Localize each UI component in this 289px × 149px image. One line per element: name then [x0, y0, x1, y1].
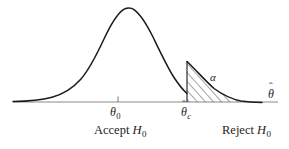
accept-word: Accept — [94, 123, 133, 137]
critical-value-label: ˆθc — [181, 106, 191, 120]
rejection-region-hatch — [183, 55, 269, 105]
hypothesis-glyph: H — [257, 123, 266, 137]
reject-word: Reject — [222, 123, 257, 137]
circumflex-accent-icon: ˆ — [269, 81, 273, 92]
theta-null-subscript: 0 — [116, 111, 121, 121]
normal-density-curve — [13, 8, 187, 102]
reject-region-label: Reject H0 — [222, 124, 271, 139]
accept-region-label: Accept H0 — [94, 124, 146, 139]
hypothesis-glyph: H — [133, 123, 142, 137]
hypothesis-subscript: 0 — [142, 129, 147, 139]
x-axis-label: ˆθ — [268, 88, 274, 100]
alpha-area-label: α — [210, 72, 216, 83]
theta-hat-glyph: ˆθ — [181, 106, 187, 118]
hypothesis-test-figure: θ0 ˆθc α ˆθ Accept H0 Reject H0 — [0, 0, 289, 149]
circumflex-accent-icon: ˆ — [182, 99, 186, 110]
hypothesis-subscript: 0 — [266, 129, 271, 139]
critical-subscript: c — [187, 111, 191, 121]
theta-null-label: θ0 — [110, 106, 121, 120]
theta-hat-glyph: ˆθ — [268, 88, 274, 100]
